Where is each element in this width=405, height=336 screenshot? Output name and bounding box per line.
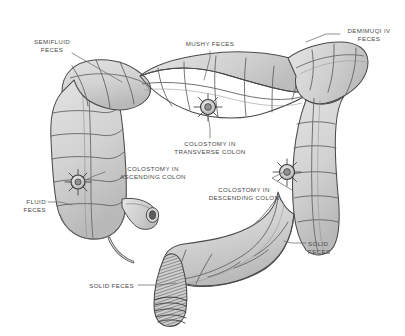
label-solid-feces-bottom: SOLID FECES [72, 282, 134, 290]
leader-line-colostomy-transverse-colon [208, 116, 210, 138]
label-text-line2: TRANSVERSE COLON [174, 148, 245, 155]
rectum-anal-canal [154, 254, 187, 327]
label-text-line2: FECES [358, 35, 380, 42]
label-mushy-feces: MUSHY FECES [178, 40, 242, 48]
descending-colon [293, 96, 345, 255]
label-text-line2: FECES [41, 46, 63, 53]
leader-line-semimushy-feces [306, 34, 340, 42]
label-semimushy-feces: DEMIMUQI IVFECES [341, 27, 397, 43]
label-colostomy-transverse-colon: COLOSTOMY INTRANSVERSE COLON [163, 140, 257, 156]
label-colostomy-ascending-colon: COLOSTOMY INASCENDING COLON [107, 165, 199, 181]
splenic-flexure [288, 42, 368, 103]
label-solid-feces-right: SOLIDFECES [308, 240, 344, 256]
label-text-line1: MUSHY FECES [186, 40, 234, 47]
label-text-line1: COLOSTOMY IN [127, 165, 178, 172]
transverse-colon [140, 52, 312, 118]
label-text-line2: FECES [24, 206, 46, 213]
label-text-line1: SOLID [308, 240, 328, 247]
label-text-line1: SEMIFLUID [34, 38, 70, 45]
stoma-ascending-colon[interactable] [65, 170, 91, 196]
label-colostomy-descending-colon: COLOSTOMY INDESCENDING COLON [196, 186, 292, 202]
label-text-line2: FECES [308, 248, 330, 255]
label-text-line1: COLOSTOMY IN [218, 186, 269, 193]
appendix [109, 238, 133, 262]
label-semifluid-feces: SEMIFLUIDFECES [24, 38, 80, 54]
label-text-line1: FLUID [26, 198, 46, 205]
label-fluid-feces: FLUIDFECES [10, 198, 46, 214]
label-text-line1: SOLID FECES [89, 282, 134, 289]
label-text-line1: DEMIMUQI IV [347, 27, 390, 34]
label-text-line1: COLOSTOMY IN [184, 140, 235, 147]
ileum [122, 198, 159, 229]
label-text-line2: ASCENDING COLON [120, 173, 186, 180]
label-text-line2: DESCENDING COLON [209, 194, 280, 201]
